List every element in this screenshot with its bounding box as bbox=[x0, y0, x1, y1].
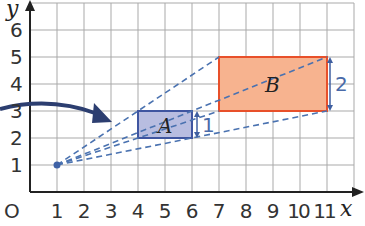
svg-text:3: 3 bbox=[105, 199, 118, 223]
svg-text:9: 9 bbox=[267, 199, 280, 223]
x-ticks: 1 2 3 4 5 6 7 8 9 10 11 bbox=[51, 199, 335, 223]
svg-text:5: 5 bbox=[159, 199, 172, 223]
svg-text:11: 11 bbox=[313, 199, 335, 223]
svg-text:2: 2 bbox=[78, 199, 91, 223]
enlargement-diagram: A B 1 2 y x O 1 2 3 4 5 6 1 2 3 4 5 6 7 … bbox=[0, 0, 365, 226]
svg-text:2: 2 bbox=[10, 126, 23, 150]
x-axis-arrow-icon bbox=[352, 187, 364, 197]
shape-a-label: A bbox=[156, 114, 172, 138]
svg-text:10: 10 bbox=[287, 199, 310, 223]
svg-text:8: 8 bbox=[240, 199, 253, 223]
svg-text:4: 4 bbox=[10, 72, 23, 96]
x-axis-label: x bbox=[340, 196, 353, 221]
svg-text:6: 6 bbox=[10, 18, 23, 42]
svg-text:4: 4 bbox=[132, 199, 145, 223]
y-ticks: 1 2 3 4 5 6 bbox=[10, 18, 23, 177]
dimension-arrow-a bbox=[194, 111, 200, 138]
y-axis-arrow-icon bbox=[25, 0, 35, 11]
curved-arrow-head-icon bbox=[92, 103, 112, 123]
origin-label: O bbox=[4, 199, 20, 223]
svg-text:6: 6 bbox=[186, 199, 199, 223]
centre-of-enlargement bbox=[54, 162, 61, 169]
svg-text:3: 3 bbox=[10, 99, 23, 123]
svg-text:1: 1 bbox=[51, 199, 64, 223]
shape-b-height-label: 2 bbox=[335, 72, 348, 96]
svg-text:5: 5 bbox=[10, 45, 23, 69]
svg-text:7: 7 bbox=[213, 199, 226, 223]
svg-text:1: 1 bbox=[10, 153, 23, 177]
shape-b-label: B bbox=[264, 73, 280, 97]
shape-a-height-label: 1 bbox=[202, 113, 215, 137]
